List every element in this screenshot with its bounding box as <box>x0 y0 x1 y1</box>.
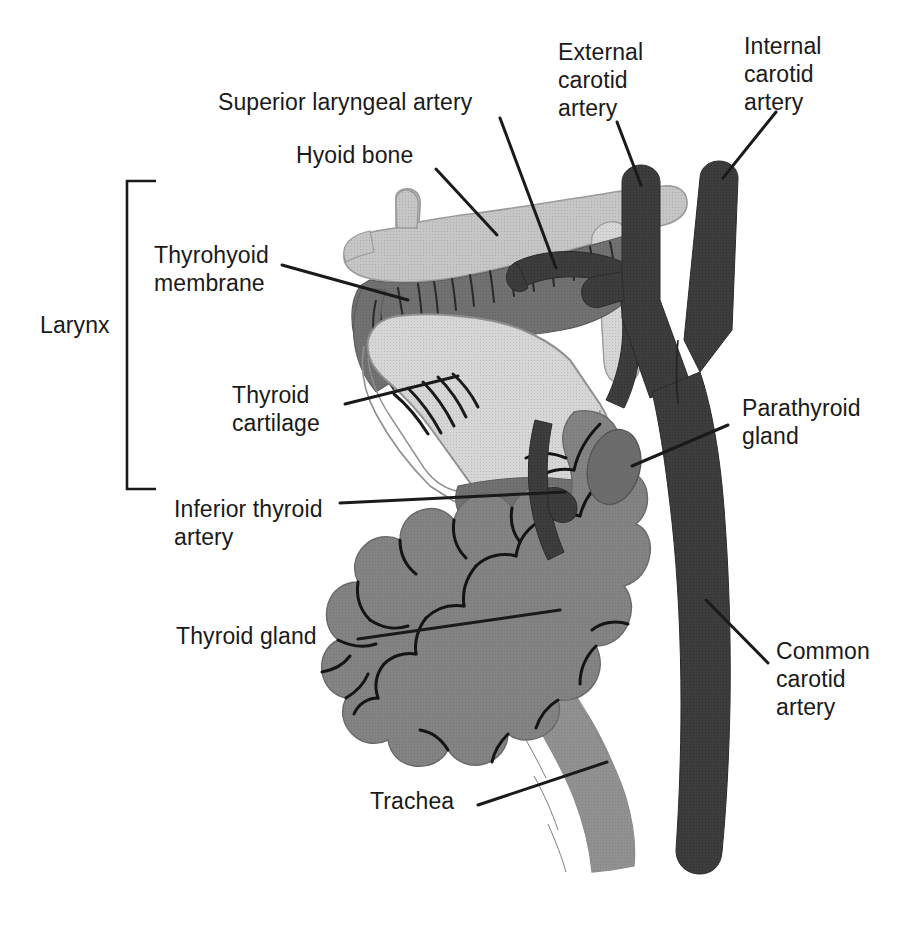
label-internal-carotid-artery: Internal carotid artery <box>744 32 822 116</box>
leader-thyroid-gland <box>358 610 560 639</box>
leader-lines <box>0 0 920 933</box>
label-thyroid-gland: Thyroid gland <box>176 622 317 650</box>
larynx-bracket <box>127 181 156 489</box>
leader-common-carotid-artery <box>706 600 768 663</box>
label-trachea: Trachea <box>370 787 454 815</box>
leader-hyoid-bone <box>436 169 497 235</box>
leader-parathyroid-gland <box>632 425 728 466</box>
label-parathyroid-gland: Parathyroid gland <box>742 394 861 450</box>
label-external-carotid-artery: External carotid artery <box>558 38 643 122</box>
label-thyrohyoid-membrane: Thyrohyoid membrane <box>154 241 269 297</box>
leader-trachea <box>478 762 607 805</box>
label-larynx: Larynx <box>40 311 110 339</box>
leader-external-carotid-artery <box>617 122 641 185</box>
label-hyoid-bone: Hyoid bone <box>296 141 413 169</box>
label-thyroid-cartilage: Thyroid cartilage <box>232 381 320 437</box>
label-inferior-thyroid-artery: Inferior thyroid artery <box>174 495 323 551</box>
leader-inferior-thyroid-artery <box>340 492 565 503</box>
label-common-carotid-artery: Common carotid artery <box>776 637 870 721</box>
leader-internal-carotid-artery <box>723 112 776 178</box>
label-superior-laryngeal-artery: Superior laryngeal artery <box>218 88 472 116</box>
leader-thyroid-cartilage <box>345 376 458 404</box>
leader-superior-laryngeal-artery <box>500 118 556 268</box>
leader-thyrohyoid-membrane <box>282 265 408 300</box>
anatomy-figure: Larynx Superior laryngeal artery Hyoid b… <box>0 0 920 933</box>
